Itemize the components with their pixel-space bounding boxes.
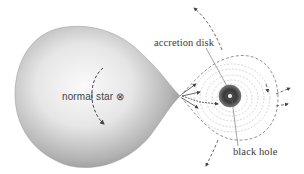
black-hole-label: black hole xyxy=(233,146,277,157)
accretion-disk-label: accretion disk xyxy=(154,37,214,48)
mass-transfer-stream xyxy=(182,84,218,108)
outflow-arrows xyxy=(194,8,290,166)
normal-star-label: normal star ⊗ xyxy=(62,91,124,102)
black-hole-leader xyxy=(232,100,238,146)
accretion-disk-leader xyxy=(206,48,228,88)
black-hole-center xyxy=(228,94,232,98)
